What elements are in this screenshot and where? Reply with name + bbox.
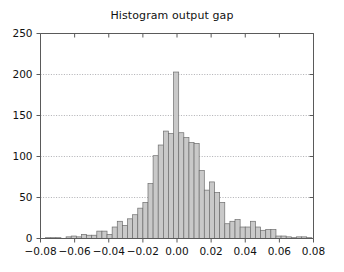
histogram-bar <box>112 227 117 238</box>
histogram-bar <box>153 156 158 239</box>
histogram-plot: −0.08−0.06−0.04−0.020.000.020.040.060.08… <box>0 0 344 272</box>
x-tick-label: −0.08 <box>24 245 56 257</box>
histogram-bar <box>102 231 107 238</box>
histogram-bar <box>194 143 199 238</box>
y-tick-label: 50 <box>19 191 32 203</box>
y-tick-label: 250 <box>12 27 32 39</box>
histogram-bar <box>168 134 173 239</box>
histogram-bar <box>261 230 266 238</box>
histogram-bar <box>225 224 230 239</box>
x-tick-label: 0.04 <box>234 245 258 257</box>
histogram-bar <box>184 138 189 239</box>
histogram-bar <box>250 221 255 238</box>
histogram-bar <box>255 227 260 238</box>
histogram-bar <box>97 231 102 238</box>
histogram-bar <box>128 219 133 239</box>
histogram-bar <box>209 182 214 239</box>
histogram-bar <box>271 229 276 238</box>
y-axis-tick-labels: 050100150200250 <box>12 27 32 244</box>
y-tick-label: 0 <box>26 232 33 244</box>
histogram-bar <box>199 170 204 238</box>
histogram-figure: Histogram output gap −0.08−0.06−0.04−0.0… <box>0 0 344 272</box>
histogram-bar <box>81 234 86 238</box>
y-tick-label: 200 <box>12 68 32 80</box>
histogram-bar <box>230 221 235 238</box>
x-tick-label: −0.04 <box>93 245 125 257</box>
x-tick-label: −0.02 <box>127 245 159 257</box>
histogram-bar <box>266 229 271 238</box>
histogram-bar <box>122 225 127 238</box>
x-tick-label: 0.02 <box>199 245 222 257</box>
histogram-bar <box>245 227 250 238</box>
histogram-bar <box>158 145 163 238</box>
histogram-bar <box>133 215 138 239</box>
histogram-bars <box>46 72 312 238</box>
histogram-bar <box>143 202 148 238</box>
x-tick-label: 0.06 <box>268 245 292 257</box>
histogram-bar <box>174 72 179 238</box>
x-tick-label: 0.00 <box>165 245 188 257</box>
histogram-bar <box>220 202 225 238</box>
histogram-bar <box>163 131 168 238</box>
y-tick-label: 150 <box>12 109 32 121</box>
histogram-bar <box>215 193 220 239</box>
histogram-bar <box>179 133 184 239</box>
histogram-bar <box>148 184 153 239</box>
histogram-bar <box>138 208 143 238</box>
histogram-bar <box>204 190 209 238</box>
x-tick-label: 0.08 <box>302 245 325 257</box>
histogram-bar <box>117 221 122 238</box>
x-axis-tick-labels: −0.08−0.06−0.04−0.020.000.020.040.060.08 <box>24 245 325 257</box>
histogram-bar <box>240 227 245 238</box>
histogram-bar <box>235 220 240 239</box>
x-tick-label: −0.06 <box>59 245 91 257</box>
y-tick-label: 100 <box>12 150 32 162</box>
histogram-bar <box>189 143 194 239</box>
histogram-bar <box>107 234 112 238</box>
